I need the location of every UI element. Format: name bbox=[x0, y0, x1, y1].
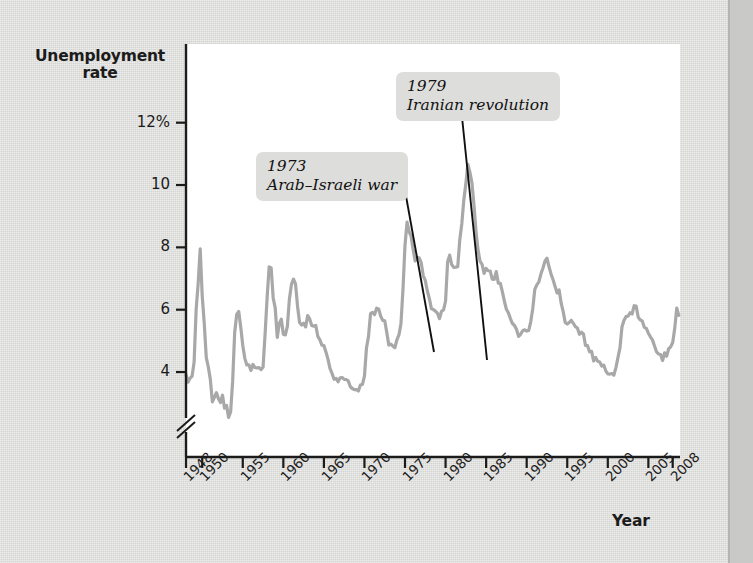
y-tick-label-4: 4 bbox=[110, 362, 170, 380]
y-tick-label-8: 8 bbox=[110, 237, 170, 255]
y-tick-label-6: 6 bbox=[110, 300, 170, 318]
annotation-callout-1973-arab-israeli-war: 1973 Arab–Israeli war bbox=[256, 152, 408, 201]
y-axis-title: Unemployment rate bbox=[24, 48, 176, 83]
annotation-callout-1979-iranian-revolution: 1979 Iranian revolution bbox=[396, 72, 560, 121]
annotation-leader-lines bbox=[406, 117, 487, 360]
x-axis-title: Year bbox=[612, 513, 682, 530]
y-tick-label-10: 10 bbox=[110, 175, 170, 193]
data-series-unemployment-rate bbox=[186, 164, 679, 417]
y-tick-label-12: 12% bbox=[110, 113, 170, 131]
